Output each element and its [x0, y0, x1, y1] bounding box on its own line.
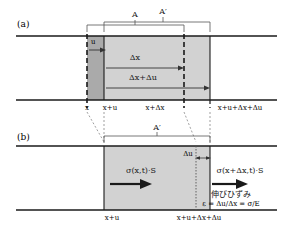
panel-a-delta-x-label: Δx	[130, 53, 141, 62]
bracket-A-prime-label: A′	[158, 7, 167, 16]
connector-inner-right	[184, 112, 196, 142]
panel-a-u-label: u	[91, 38, 96, 46]
panel-b-axis-label-x-plus-u: x+u	[105, 214, 120, 222]
panel-a-axis-label-x-plus-delta-x: x+Δx	[146, 104, 165, 112]
panel-b-label: (b)	[17, 132, 30, 142]
bracket-A-prime	[104, 17, 210, 32]
panel-a-label: (a)	[17, 19, 29, 29]
panel-b-light-region	[104, 146, 196, 210]
connector-left	[87, 112, 104, 142]
panel-a-delta-x-delta-u-label: Δx+Δu	[129, 73, 157, 82]
panel-b-strain-formula: ε = Δu/Δx = σ/E	[202, 200, 259, 208]
panel-a: A A′ u Δx	[16, 7, 277, 112]
bracket-A-label: A	[131, 10, 138, 19]
panel-b-bracket-A-prime	[104, 132, 210, 143]
panel-a-axis-label-x-plus-u-plus-delta-x-plus-delta-u: x+u+Δx+Δu	[218, 104, 263, 112]
panel-b-strain-caption-jp: 伸びひずみ	[211, 189, 251, 199]
panel-b: A′ Δu σ(x,t)·S σ(x+Δx,t)·S	[16, 123, 277, 222]
panel-b-sigma-right-label: σ(x+Δx,t)·S	[217, 166, 264, 175]
panel-b-sigma-right-arrow	[212, 179, 248, 189]
panel-connectors	[87, 112, 210, 142]
panel-a-light-region-right	[184, 36, 210, 100]
panel-b-bracket-A-prime-label: A′	[152, 123, 161, 132]
panel-a-axis-label-x-plus-u: x+u	[103, 104, 118, 112]
panel-b-delta-u-label: Δu	[183, 150, 193, 158]
panel-b-sigma-left-label: σ(x,t)·S	[126, 166, 156, 175]
panel-a-axis-label-x: x	[85, 104, 89, 112]
panel-b-axis-label-x-plus-u-plus-delta-x-plus-delta-u: x+u+Δx+Δu	[177, 214, 222, 222]
figure-svg: A A′ u Δx	[0, 0, 283, 233]
figure-root: A A′ u Δx	[0, 0, 283, 233]
